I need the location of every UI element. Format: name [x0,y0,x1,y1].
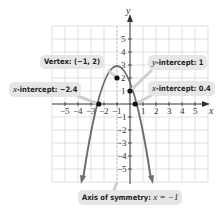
y-tick-label: −4 [117,151,127,161]
y-tick-label: −3 [117,138,127,148]
axis-of-symmetry-text: Axis of symmetry: [82,193,153,202]
y-intercept-callout: y-intercept: 1 [148,55,207,70]
x-intercept-left-callout: x-intercept: −2.4 [9,82,81,97]
x-intercept-right-point [133,101,138,106]
x-intercept-left-point [96,101,101,106]
x-tick-label: 3 [167,106,172,116]
y-intercept-text: -intercept: 1 [156,58,203,67]
curve-arrow-left-icon [80,175,86,184]
x-tick-label: −5 [60,106,70,116]
y-tick-label: −5 [117,164,127,174]
x-intercept-left-text: -intercept: −2.4 [17,85,77,94]
curve-arrow-right-icon [148,175,154,184]
axis-of-symmetry-equation: x = −1 [153,192,178,202]
parabola-graph: −5 −4 −3 −2 −1 1 2 3 4 5 1 2 3 4 5 −1 −2… [0,0,224,222]
axis-of-symmetry-callout: Axis of symmetry: x = −1 [78,190,182,205]
y-intercept-point [127,88,132,93]
x-tick-label: 2 [154,106,159,116]
y-tick-label: −1 [117,112,127,122]
vertex-callout-prefix: Vertex: [44,57,74,66]
x-tick-label: −4 [73,106,83,116]
x-tick-label: −2 [99,106,109,116]
vertex-point [114,75,119,80]
vertex-callout-value: (−1, 2) [74,57,100,66]
y-axis-label: y [125,5,131,16]
y-tick-label: 1 [121,86,126,96]
x-intercept-right-callout: x-intercept: 0.4 [148,81,215,96]
x-axis-label: x [208,105,214,116]
y-tick-label: 5 [121,34,126,44]
x-tick-label: 1 [141,106,146,116]
vertex-callout: Vertex: (−1, 2) [40,55,104,69]
leader-lines [75,70,152,196]
x-tick-label: 4 [180,106,185,116]
y-tick-label: 2 [121,73,126,83]
y-tick-label: 4 [121,47,126,57]
y-tick-label: −2 [117,125,127,135]
x-intercept-right-text: -intercept: 0.4 [156,84,211,93]
x-tick-label: 5 [193,106,198,116]
